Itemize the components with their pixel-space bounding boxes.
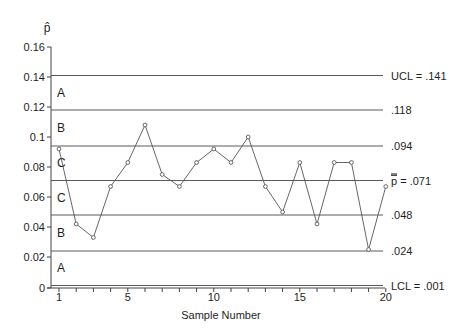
data-point bbox=[160, 173, 164, 177]
y-tick-label: 0.12 bbox=[24, 101, 45, 113]
data-point bbox=[212, 147, 216, 151]
zone-label: B bbox=[57, 226, 65, 240]
data-point bbox=[126, 161, 130, 165]
y-tick-label: 0.04 bbox=[24, 221, 45, 233]
zone-label: C bbox=[57, 191, 66, 205]
center-line-value: = .071 bbox=[397, 175, 431, 187]
y-tick-label: 0 bbox=[39, 282, 45, 294]
zone-bc-lower-label: .048 bbox=[391, 209, 412, 221]
y-tick-label: 0.06 bbox=[24, 191, 45, 203]
series-line bbox=[59, 125, 386, 250]
zone-label: B bbox=[57, 121, 65, 135]
data-point bbox=[195, 161, 199, 165]
x-axis-label: Sample Number bbox=[181, 309, 261, 321]
y-tick-label: 0.02 bbox=[24, 251, 45, 263]
zone-ab-lower-label: .024 bbox=[391, 245, 412, 257]
y-tick-label: 0.16 bbox=[24, 41, 45, 53]
data-point bbox=[246, 135, 250, 139]
x-tick-label: 10 bbox=[208, 291, 220, 303]
y-axis-label: p̂ bbox=[44, 21, 51, 35]
x-tick-label: 5 bbox=[125, 291, 131, 303]
ucl-label: UCL = .141 bbox=[391, 70, 447, 82]
zone-bc-upper-label: .094 bbox=[391, 140, 412, 152]
data-point bbox=[281, 210, 285, 214]
data-point bbox=[350, 161, 354, 165]
data-point bbox=[143, 123, 147, 127]
chart-canvas: p̂00.020.040.060.080.10.120.140.16151015… bbox=[0, 0, 461, 336]
p-control-chart: p̂00.020.040.060.080.10.120.140.16151015… bbox=[0, 0, 461, 336]
zone-ab-upper-label: .118 bbox=[391, 104, 412, 116]
data-point bbox=[74, 222, 78, 226]
lcl-label: LCL = .001 bbox=[391, 280, 445, 292]
zone-label: A bbox=[57, 261, 65, 275]
data-point bbox=[109, 185, 113, 189]
x-tick-label: 1 bbox=[56, 291, 62, 303]
zone-label: A bbox=[57, 86, 65, 100]
center-line-label: p = .071 bbox=[391, 175, 431, 187]
data-point bbox=[315, 222, 319, 226]
data-point bbox=[57, 147, 61, 151]
data-point bbox=[384, 185, 388, 189]
data-point bbox=[178, 185, 182, 189]
y-tick-label: 0.1 bbox=[30, 131, 45, 143]
data-point bbox=[332, 161, 336, 165]
data-point bbox=[229, 161, 233, 165]
y-tick-label: 0.08 bbox=[24, 161, 45, 173]
data-point bbox=[264, 185, 268, 189]
data-point bbox=[367, 248, 371, 252]
x-tick-label: 20 bbox=[380, 291, 392, 303]
x-tick-label: 15 bbox=[294, 291, 306, 303]
data-point bbox=[298, 161, 302, 165]
data-point bbox=[92, 236, 96, 240]
y-tick-label: 0.14 bbox=[24, 71, 45, 83]
